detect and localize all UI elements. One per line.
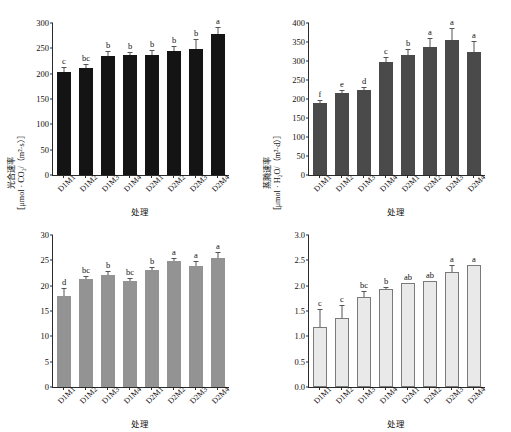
x-axis-tick-mark: [173, 175, 174, 178]
error-bar-cap: [62, 288, 67, 289]
bar[interactable]: [313, 327, 327, 387]
bar[interactable]: [123, 281, 137, 387]
bar-slot: f: [313, 23, 327, 175]
chart-panel-stomatal-conductance: 气孔导度［μmol · H₂O/（m²·d）］05010015020025030…: [256, 9, 511, 220]
bar-slot: a: [211, 235, 225, 387]
bar-slot: a: [211, 23, 225, 175]
error-bar: [64, 289, 65, 297]
significance-letter: ab: [404, 272, 412, 282]
bar[interactable]: [189, 49, 203, 175]
bar[interactable]: [357, 297, 371, 387]
bar[interactable]: [167, 261, 181, 387]
bar-series: ccbcbababaa: [309, 235, 485, 387]
bar[interactable]: [313, 103, 327, 175]
error-bar-cap: [84, 276, 89, 277]
error-bar-cap: [106, 271, 111, 272]
bar-slot: c: [313, 235, 327, 387]
bar-slot: a: [467, 235, 481, 387]
error-bar-cap: [406, 49, 411, 50]
bar[interactable]: [401, 55, 415, 175]
bar-slot: d: [57, 235, 71, 387]
bar[interactable]: [167, 51, 181, 175]
significance-letter: bc: [360, 280, 368, 290]
x-axis-tick-mark: [451, 175, 452, 178]
bar[interactable]: [79, 68, 93, 175]
x-axis-tick-mark: [429, 387, 430, 390]
bar[interactable]: [145, 55, 159, 175]
bar[interactable]: [211, 258, 225, 387]
x-axis-tick-mark: [217, 175, 218, 178]
bar[interactable]: [401, 283, 415, 387]
x-axis-tick-mark: [385, 387, 386, 390]
bar[interactable]: [335, 93, 349, 175]
significance-letter: c: [384, 46, 388, 56]
plot-axes: 051015202530dbcbbcbaaa: [52, 235, 229, 388]
error-bar: [430, 39, 431, 46]
y-axis-title-line1: 光合速率: [7, 157, 17, 189]
y-axis-title: 气孔导度［μmol · H₂O/（m²·d）］: [260, 0, 286, 27]
chart-panel-photosynthetic-rate: 光合速率［μmol · CO₂/（m²·s）］051015202530dbcbb…: [0, 221, 255, 432]
error-bar-cap: [194, 39, 199, 40]
x-axis-tick-mark: [107, 387, 108, 390]
significance-letter: e: [340, 79, 344, 89]
bar[interactable]: [335, 318, 349, 387]
x-axis-tick-mark: [473, 387, 474, 390]
error-bar-cap: [428, 38, 433, 39]
significance-letter: bc: [82, 265, 90, 275]
y-axis-title-line1: 蒸腾速率: [263, 157, 273, 189]
bar[interactable]: [423, 281, 437, 387]
bar[interactable]: [189, 266, 203, 387]
bar[interactable]: [357, 90, 371, 176]
error-bar: [196, 40, 197, 49]
figure-panel-grid: 胞间CO₂浓度（μmol · CO₂/mol）05010015020025030…: [0, 9, 511, 432]
bar[interactable]: [145, 270, 159, 387]
error-bar-cap: [194, 261, 199, 262]
bar[interactable]: [379, 62, 393, 175]
x-axis-tick-mark: [319, 387, 320, 390]
bar-slot: b: [145, 235, 159, 387]
x-axis-tick-mark: [195, 175, 196, 178]
bar[interactable]: [445, 40, 459, 175]
bar[interactable]: [467, 52, 481, 175]
x-axis-title: 处理: [308, 205, 484, 217]
x-axis-tick-mark: [363, 387, 364, 390]
error-bar-cap: [450, 28, 455, 29]
bar[interactable]: [123, 55, 137, 175]
error-bar-cap: [450, 265, 455, 266]
bar-slot: bc: [79, 23, 93, 175]
bar-slot: b: [379, 235, 393, 387]
bar[interactable]: [423, 47, 437, 175]
bar-slot: c: [379, 23, 393, 175]
x-tick-slot: D1M1: [312, 387, 326, 421]
error-bar-cap: [172, 46, 177, 47]
bar-series: fedcbaaa: [309, 23, 485, 175]
error-bar-cap: [384, 287, 389, 288]
bar-slot: c: [57, 23, 71, 175]
bar[interactable]: [211, 34, 225, 175]
x-tick-slot: D1M1: [56, 387, 70, 421]
x-tick-slot: D1M1: [56, 175, 70, 209]
cropped-header-text: [0, 0, 511, 9]
chart-panel-intercellular-co2: 胞间CO₂浓度（μmol · CO₂/mol）05010015020025030…: [0, 9, 255, 220]
x-axis-tick-mark: [129, 387, 130, 390]
bar-slot: a: [467, 23, 481, 175]
x-axis-tick-mark: [363, 175, 364, 178]
significance-letter: bc: [82, 53, 90, 63]
bar[interactable]: [379, 289, 393, 387]
bar-slot: a: [423, 23, 437, 175]
bar[interactable]: [467, 265, 481, 387]
bar[interactable]: [445, 272, 459, 387]
bar[interactable]: [101, 56, 115, 175]
significance-letter: b: [150, 39, 154, 49]
x-axis-tick-mark: [151, 175, 152, 178]
bar[interactable]: [57, 296, 71, 387]
bar[interactable]: [101, 275, 115, 387]
bar[interactable]: [57, 72, 71, 175]
bar[interactable]: [79, 279, 93, 387]
error-bar-cap: [150, 267, 155, 268]
bar-slot: ab: [401, 235, 415, 387]
significance-letter: a: [450, 17, 454, 27]
error-bar: [452, 29, 453, 40]
error-bar-cap: [362, 87, 367, 88]
significance-letter: a: [216, 16, 220, 26]
